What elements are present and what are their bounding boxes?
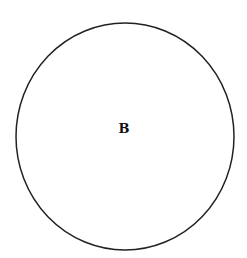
circle-node-b [16,23,234,250]
node-label-b: B [119,121,130,136]
diagram-canvas: B [0,0,247,258]
